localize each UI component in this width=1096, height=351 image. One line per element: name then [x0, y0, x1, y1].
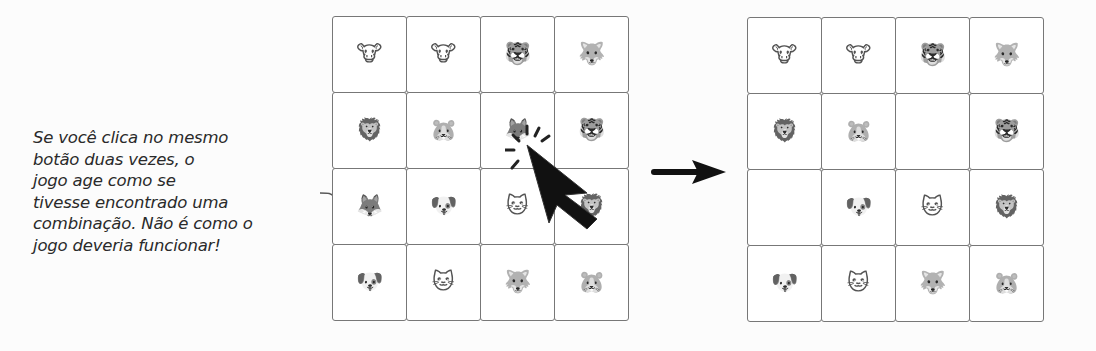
card-button[interactable]: 🐹: [554, 244, 629, 321]
card-button[interactable]: 🐺: [969, 17, 1044, 94]
card-button[interactable]: 🐯: [480, 16, 555, 93]
fox-icon: 🦊: [356, 195, 383, 217]
card-button[interactable]: 🐹: [406, 92, 481, 169]
card-button[interactable]: 🐶: [406, 168, 481, 245]
mouse-cursor-click-icon: [505, 123, 615, 233]
card-button[interactable]: 🐺: [480, 244, 555, 321]
hamster-icon: 🐹: [430, 119, 457, 141]
wolf-icon: 🐺: [578, 43, 605, 65]
dog-icon: 🐶: [356, 271, 383, 293]
card-button[interactable]: 🦁: [332, 92, 407, 169]
card-button-empty[interactable]: [895, 93, 970, 170]
wolf-icon: 🐺: [993, 44, 1020, 66]
card-button[interactable]: 🐶: [332, 244, 407, 321]
card-button[interactable]: 🦁: [969, 169, 1044, 246]
cat-icon: 🐱: [921, 196, 944, 218]
note-line: jogo age como se: [33, 170, 323, 192]
cat-icon: 🐱: [847, 272, 870, 294]
card-button[interactable]: 🐺: [554, 16, 629, 93]
card-button[interactable]: 🐮: [332, 16, 407, 93]
card-button[interactable]: 🐶: [821, 169, 896, 246]
tiger-icon: 🐯: [919, 44, 946, 66]
cow-icon: 🐮: [845, 44, 871, 66]
hamster-icon: 🐹: [578, 271, 605, 293]
lion-icon: 🦁: [771, 120, 798, 142]
note-line: Se você clica no mesmo: [33, 127, 323, 149]
card-button[interactable]: 🐯: [969, 93, 1044, 170]
cow-icon: 🐮: [771, 44, 797, 66]
hamster-icon: 🐹: [993, 272, 1020, 294]
card-button[interactable]: 🐶: [747, 245, 822, 322]
wolf-icon: 🐺: [919, 272, 946, 294]
tiger-icon: 🐯: [993, 120, 1020, 142]
annotation-note: Se você clica no mesmo botão duas vezes,…: [33, 127, 323, 256]
card-button[interactable]: 🐹: [969, 245, 1044, 322]
card-button[interactable]: 🐱: [895, 169, 970, 246]
note-line: tivesse encontrado uma: [33, 192, 323, 214]
cat-icon: 🐱: [432, 271, 455, 293]
cow-icon: 🐮: [430, 43, 456, 65]
note-line: combinação. Não é como o: [33, 213, 323, 235]
cow-icon: 🐮: [356, 43, 382, 65]
hamster-icon: 🐹: [845, 120, 872, 142]
note-line: botão duas vezes, o: [33, 149, 323, 171]
card-button[interactable]: 🦊: [332, 168, 407, 245]
card-button[interactable]: 🦁: [747, 93, 822, 170]
lion-icon: 🦁: [993, 196, 1020, 218]
right-arrow-icon: [650, 158, 728, 186]
dog-icon: 🐶: [845, 196, 872, 218]
dog-icon: 🐶: [430, 195, 457, 217]
tiger-icon: 🐯: [504, 43, 531, 65]
lion-icon: 🦁: [356, 119, 383, 141]
card-button[interactable]: 🐮: [747, 17, 822, 94]
card-button[interactable]: 🐯: [895, 17, 970, 94]
dog-icon: 🐶: [771, 272, 798, 294]
card-button[interactable]: 🐹: [821, 93, 896, 170]
card-button-empty[interactable]: [747, 169, 822, 246]
note-line: jogo deveria funcionar!: [33, 235, 323, 257]
card-button[interactable]: 🐱: [406, 244, 481, 321]
wolf-icon: 🐺: [504, 271, 531, 293]
card-button[interactable]: 🐮: [406, 16, 481, 93]
board-after: 🐮 🐮 🐯 🐺 🦁 🐹 🐯 🐶 🐱 🦁 🐶 🐱 🐺 🐹: [747, 17, 1043, 321]
card-button[interactable]: 🐺: [895, 245, 970, 322]
card-button[interactable]: 🐱: [821, 245, 896, 322]
card-button[interactable]: 🐮: [821, 17, 896, 94]
